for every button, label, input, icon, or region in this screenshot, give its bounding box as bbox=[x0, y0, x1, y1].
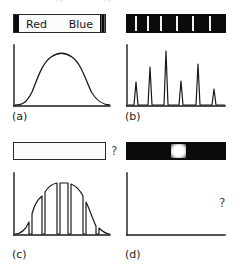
emission-line bbox=[160, 16, 162, 31]
panel-b-curve bbox=[128, 51, 225, 105]
panel-a-caption: (a) bbox=[12, 110, 27, 123]
panel-a-curve bbox=[15, 53, 110, 105]
panel-b-caption: (b) bbox=[125, 110, 141, 123]
panel-b-spectrum-band bbox=[126, 14, 226, 33]
emission-line bbox=[192, 16, 194, 31]
band-edge-left bbox=[14, 15, 19, 32]
panel-c-question-mark: ? bbox=[111, 144, 117, 158]
panel-a-plot bbox=[13, 44, 111, 110]
clipped-text-remnant: d g bbox=[0, 0, 244, 2]
remnant-right: g bbox=[104, 0, 111, 2]
panel-d-spectrum-band bbox=[126, 142, 226, 160]
panel-a-spectrum-band: Red Blue bbox=[13, 14, 106, 33]
panel-d-caption: (d) bbox=[125, 248, 141, 261]
band-edge-right bbox=[100, 15, 105, 32]
band-label-blue: Blue bbox=[69, 17, 93, 30]
emission-line bbox=[147, 16, 149, 31]
spectra-figure: d g Red Blue (a) bbox=[0, 0, 244, 272]
band-label-red: Red bbox=[26, 17, 47, 30]
panel-d-question-mark: ? bbox=[219, 196, 225, 210]
emission-line bbox=[135, 16, 137, 31]
emission-line bbox=[176, 16, 178, 31]
remnant-left: d bbox=[56, 0, 63, 2]
emission-line bbox=[209, 16, 211, 31]
panel-c-plot bbox=[13, 172, 111, 240]
panel-d-plot bbox=[126, 172, 226, 240]
panel-c-spectrum-band bbox=[13, 142, 106, 160]
panel-c-caption: (c) bbox=[12, 248, 27, 261]
panel-c-curve bbox=[15, 183, 110, 234]
broad-emission-blob bbox=[171, 144, 186, 158]
panel-b-plot bbox=[126, 44, 226, 110]
